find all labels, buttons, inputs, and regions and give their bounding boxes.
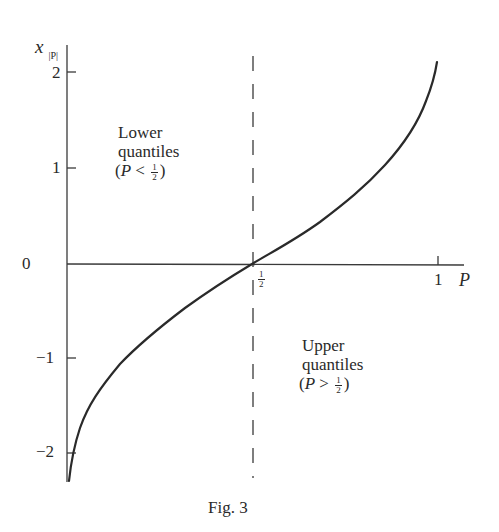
fraction-one-half: 12 bbox=[151, 163, 158, 182]
x-axis bbox=[67, 264, 464, 265]
condition-operator: > bbox=[315, 374, 333, 393]
lower-quantiles-line1: Lower bbox=[118, 123, 179, 142]
upper-quantiles-condition: (P > 12) bbox=[299, 374, 363, 395]
y-tick-label-m1: −1 bbox=[36, 348, 54, 368]
x-tick-label-half: 1 2 bbox=[256, 268, 267, 289]
upper-quantiles-annotation: Upper quantiles (P > 12) bbox=[302, 336, 363, 395]
upper-quantiles-line1: Upper bbox=[302, 336, 363, 355]
y-tick-label-2: 2 bbox=[52, 63, 61, 83]
fraction-one-half: 1 2 bbox=[258, 270, 265, 289]
y-tick-label-0: 0 bbox=[22, 254, 31, 274]
quantile-chart bbox=[0, 0, 499, 532]
lower-quantiles-annotation: Lower quantiles (P < 12) bbox=[118, 123, 179, 182]
condition-variable: P bbox=[305, 374, 315, 393]
upper-quantiles-line2: quantiles bbox=[302, 355, 363, 374]
fraction-denominator: 2 bbox=[258, 280, 265, 289]
y-tick-label-1: 1 bbox=[52, 158, 61, 178]
paren-close: ) bbox=[160, 161, 166, 180]
fraction-denominator: 2 bbox=[335, 386, 342, 395]
x-tick-label-1: 1 bbox=[434, 270, 443, 290]
condition-operator: < bbox=[131, 161, 149, 180]
paren-close: ) bbox=[344, 374, 350, 393]
lower-quantiles-condition: (P < 12) bbox=[115, 161, 179, 182]
figure-caption: Fig. 3 bbox=[208, 498, 248, 518]
x-axis-label: P bbox=[459, 270, 470, 290]
y-tick-label-m2: −2 bbox=[36, 442, 54, 462]
y-axis-label-subscript: |P| bbox=[48, 50, 58, 61]
fraction-one-half: 12 bbox=[335, 376, 342, 395]
y-axis-label-main: x bbox=[35, 36, 43, 57]
condition-variable: P bbox=[121, 161, 131, 180]
fraction-denominator: 2 bbox=[151, 173, 158, 182]
lower-quantiles-line2: quantiles bbox=[118, 142, 179, 161]
y-axis-label: x|P| bbox=[35, 37, 58, 60]
